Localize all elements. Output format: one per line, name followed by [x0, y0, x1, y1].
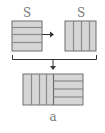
label-bottom: a	[49, 110, 56, 124]
diagram-canvas: S S a	[0, 0, 105, 133]
label-top-right: S	[77, 6, 85, 20]
merge-bracket	[13, 55, 97, 60]
right-arrow-icon	[42, 32, 54, 38]
combined-block	[23, 74, 83, 105]
left-block-horizontal-stripes	[12, 21, 42, 51]
right-block-vertical-stripes	[65, 21, 96, 51]
label-top-left: S	[23, 6, 31, 20]
down-arrow-icon	[50, 60, 56, 71]
